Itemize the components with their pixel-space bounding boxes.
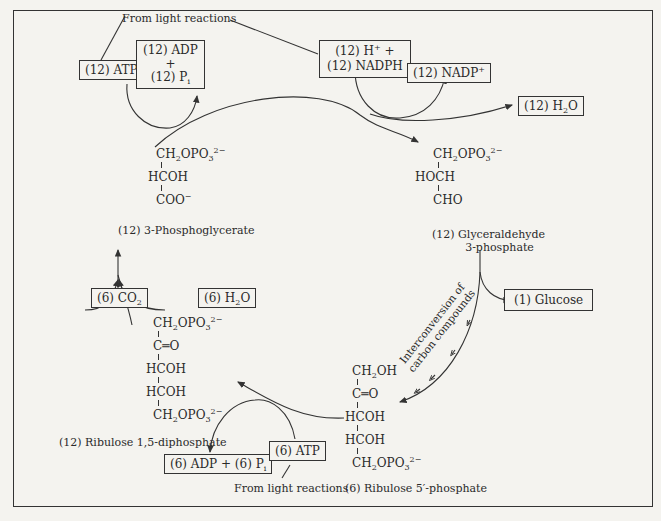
- atp-12-box: (12) ATP: [79, 60, 144, 80]
- phosphoglycerate-label: (12) 3-Phosphoglycerate: [118, 224, 255, 237]
- h-plus-12-text: (12) H+ +: [327, 44, 403, 59]
- adp-pi-6-box: (6) ADP + (6) Pi: [164, 454, 272, 474]
- nadp-plus-12-box: (12) NADP+: [407, 63, 491, 83]
- from-light-reactions-label-bottom: From light reactions: [234, 482, 348, 495]
- ribulose-diphosphate-structure: CH2OPO32− C═O HCOH HCOH CH2OPO32−: [153, 316, 222, 386]
- adp-pi-12-box: (12) ADP + (12) Pi: [136, 40, 205, 89]
- nadph-12-text: (12) NADPH: [327, 59, 403, 74]
- ribulose-phosphate-label: (6) Ribulose 5′-phosphate: [345, 482, 487, 495]
- plus-text: +: [143, 58, 198, 72]
- h2o-12-box: (12) H2O: [518, 96, 584, 116]
- ribulose-phosphate-structure: CH2OH C═O HCOH HCOH CH2OPO32−: [352, 364, 421, 434]
- glyceraldehyde-label: (12) Glyceraldehyde 3-phosphate: [432, 228, 545, 254]
- co2-6-box: (6) CO2: [91, 288, 148, 308]
- adp-12-text: (12) ADP: [143, 44, 198, 58]
- glucose-box: (1) Glucose: [504, 289, 593, 311]
- phosphoglycerate-structure: CH2OPO32− HCOH COO−: [148, 147, 217, 189]
- nadph-12-box: (12) H+ + (12) NADPH: [319, 40, 411, 78]
- pi-12-text: (12) Pi: [143, 71, 198, 85]
- glyceraldehyde-structure: CH2OPO32− HOCH CHO: [415, 147, 484, 189]
- from-light-reactions-label-top: From light reactions: [122, 12, 236, 25]
- ribulose-diphosphate-label: (12) Ribulose 1,5-diphosphate: [59, 436, 227, 449]
- h2o-6-box: (6) H2O: [198, 288, 256, 308]
- atp-6-box: (6) ATP: [269, 441, 326, 461]
- atp-12-text: (12) ATP: [85, 63, 138, 77]
